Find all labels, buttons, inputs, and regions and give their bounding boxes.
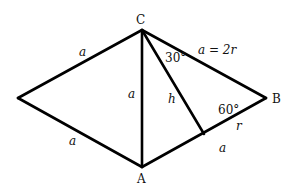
vertex-b-label: B [272,92,281,106]
side-label-middle: a [128,87,135,101]
angle-label-c: 30° [165,51,186,65]
edge-c-left [18,30,142,98]
side-label-upper-left: a [79,45,86,59]
side-label-right-upper: a = 2r [198,43,237,57]
edge-c-b [142,30,266,98]
segment-label-r: r [236,119,243,133]
rhombus-diagram: C B A a a a h a = 2r 30° 60° r a [0,0,294,196]
height-label: h [168,92,176,106]
segment-label-a: a [219,141,226,155]
angle-label-b: 60° [218,103,239,117]
side-label-lower-left: a [69,134,76,148]
edge-left-a [18,98,142,167]
vertex-c-label: C [136,13,145,27]
vertex-a-label: A [136,172,146,186]
